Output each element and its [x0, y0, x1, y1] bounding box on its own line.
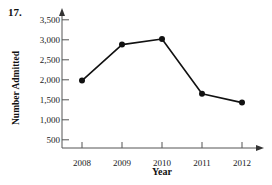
data-markers — [79, 36, 245, 106]
data-point-2009 — [119, 42, 125, 48]
y-tick-marks — [62, 20, 69, 140]
plot-svg — [0, 0, 272, 185]
line-chart: Number Admitted Year 3,500 3,000 2,500 2… — [0, 0, 272, 185]
data-point-2008 — [79, 78, 85, 84]
data-point-2011 — [199, 91, 205, 97]
data-point-2012 — [239, 100, 245, 106]
data-line — [82, 39, 242, 103]
y-axis-arrowhead — [59, 8, 65, 16]
x-tick-marks — [82, 142, 242, 148]
figure-container: 17. Number Admitted Year 3,500 3,000 2,5… — [0, 0, 272, 185]
x-axis-arrowhead — [256, 145, 264, 151]
axes-group — [59, 8, 264, 151]
data-point-2010 — [159, 36, 165, 42]
